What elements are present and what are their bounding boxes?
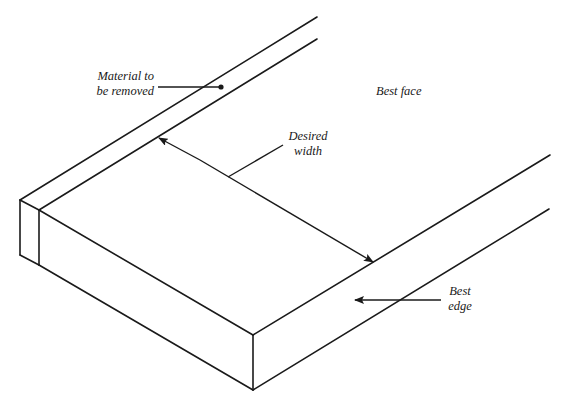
best-edge-line2: edge bbox=[444, 299, 476, 314]
material-label-line1: Material to bbox=[96, 69, 154, 84]
desired-width-line2: width bbox=[285, 144, 331, 159]
material-pointer-icon bbox=[158, 84, 224, 89]
front-top-edge bbox=[39, 210, 253, 335]
back-top-edge bbox=[20, 17, 317, 200]
cut-line-edge bbox=[39, 39, 317, 210]
best-edge-label: Best edge bbox=[444, 284, 476, 314]
material-label: Material to be removed bbox=[96, 69, 154, 99]
best-edge-line1: Best bbox=[444, 284, 476, 299]
board-diagram bbox=[0, 0, 569, 404]
best-face-label: Best face bbox=[376, 84, 421, 99]
material-label-line2: be removed bbox=[96, 84, 154, 99]
end-bottom-edge bbox=[20, 255, 39, 265]
end-top-edge bbox=[20, 200, 39, 210]
desired-width-label: Desired width bbox=[285, 129, 331, 159]
width-leader-line bbox=[228, 145, 283, 177]
best-edge-top-line bbox=[253, 155, 550, 335]
front-bottom-edge bbox=[39, 265, 253, 390]
width-arrow-icon bbox=[159, 138, 373, 262]
desired-width-line1: Desired bbox=[285, 129, 331, 144]
